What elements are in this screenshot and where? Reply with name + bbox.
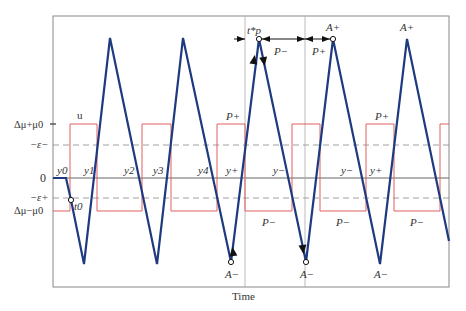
trough-label-a-minus: A− <box>224 268 239 280</box>
segment-label-y4: y4 <box>197 164 209 176</box>
arrow-right-icon <box>237 36 245 42</box>
segment-label-y-minus: y− <box>340 164 353 176</box>
p-minus-label: P− <box>335 216 350 228</box>
segment-label-y0: y0 <box>56 164 68 176</box>
peak-label-a-plus: A+ <box>399 21 414 33</box>
p-minus-label: P− <box>273 45 288 57</box>
u-square-wave <box>53 124 449 211</box>
p-plus-label: P+ <box>311 45 326 57</box>
segment-label-y-plus: y+ <box>225 164 238 176</box>
peak-label-a-plus: A+ <box>325 21 340 33</box>
x-axis-label: Time <box>232 290 255 302</box>
segment-label-y1: y1 <box>83 164 94 176</box>
u-label: u <box>77 109 83 121</box>
y-label-zero: 0 <box>40 171 46 185</box>
t0-label: t0 <box>74 200 83 212</box>
relay-feedback-chart: Δμ+μ0 −ε− 0 −ε+ Δμ−μ0 u y0 y1 y2 y3 y4 y… <box>0 0 466 311</box>
segment-label-y-plus: y+ <box>369 164 382 176</box>
y-label-eps-plus: −ε+ <box>30 192 48 203</box>
tp-marker <box>256 36 261 41</box>
y-label-mu-minus: Δμ−μ0 <box>14 205 43 216</box>
arrow-left-icon <box>262 36 270 42</box>
arrow-left-icon <box>305 36 313 42</box>
p-plus-label: P+ <box>225 110 240 122</box>
segment-label-y-minus: y− <box>272 164 285 176</box>
trough-label-a-minus: A− <box>299 268 314 280</box>
p-minus-label: P− <box>409 216 424 228</box>
trough-label-a-minus: A− <box>373 268 388 280</box>
arrow-right-icon <box>297 36 305 42</box>
p-plus-label: P+ <box>374 110 389 122</box>
trough-marker <box>228 259 233 264</box>
arrow-right-icon <box>322 36 330 42</box>
y-label-mu-plus: Δμ+μ0 <box>14 119 43 130</box>
tp-star-label: t*p <box>247 24 262 36</box>
y-label-eps-minus: −ε− <box>30 139 48 150</box>
segment-label-y3: y3 <box>152 164 164 176</box>
trough-marker <box>303 259 308 264</box>
t0-marker <box>68 197 73 202</box>
segment-label-y2: y2 <box>123 164 135 176</box>
p-minus-label: P− <box>261 216 276 228</box>
peak-marker <box>330 36 335 41</box>
plot-frame <box>53 16 449 287</box>
y-triangle-wave <box>53 38 449 264</box>
